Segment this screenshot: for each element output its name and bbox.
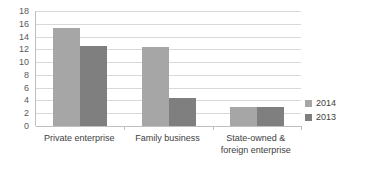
bar-group: [142, 11, 196, 126]
x-axis-category-label: Private enterprise: [35, 132, 123, 144]
y-axis-tick-label: 10: [19, 58, 29, 67]
bar-group: [230, 11, 284, 126]
axis-baseline: [36, 126, 301, 127]
legend-item-2014[interactable]: 2014: [305, 96, 336, 110]
bar-2013-2[interactable]: [169, 98, 196, 126]
bar-2014-2[interactable]: [142, 47, 169, 126]
plot-area: [35, 11, 301, 126]
bars-layer: [36, 11, 301, 126]
bar-chart: 181614121086420 Private enterpriseFamily…: [0, 0, 365, 174]
x-axis-category-label-line: State-owned &: [212, 132, 300, 144]
y-axis-tick-label: 14: [19, 32, 29, 41]
x-axis-labels: Private enterpriseFamily businessState-o…: [35, 132, 300, 172]
y-axis-tick-label: 2: [24, 109, 29, 118]
legend-item-2013[interactable]: 2013: [305, 110, 336, 124]
y-axis-tick-label: 18: [19, 7, 29, 16]
bar-2014-1[interactable]: [53, 28, 80, 126]
x-axis-tick: [301, 126, 302, 130]
y-axis-tick-label: 8: [24, 70, 29, 79]
y-axis: 181614121086420: [0, 5, 32, 128]
bar-group: [53, 11, 107, 126]
bar-2014-3[interactable]: [230, 107, 257, 126]
y-axis-tick-label: 0: [24, 122, 29, 131]
chart-legend: 20142013: [305, 96, 336, 124]
y-axis-tick-label: 12: [19, 45, 29, 54]
legend-item-label: 2013: [316, 113, 336, 122]
bar-2013-1[interactable]: [80, 46, 107, 126]
y-axis-tick-label: 16: [19, 19, 29, 28]
x-axis-category-label: State-owned &foreign enterprise: [212, 132, 300, 156]
legend-swatch-icon: [305, 114, 312, 121]
x-axis-category-label-line: Private enterprise: [35, 132, 123, 144]
x-axis-category-label-line: foreign enterprise: [212, 144, 300, 156]
x-axis-category-label-line: Family business: [123, 132, 211, 144]
legend-item-label: 2014: [316, 99, 336, 108]
x-axis-tick: [213, 126, 214, 130]
y-axis-tick-label: 6: [24, 83, 29, 92]
bar-2013-3[interactable]: [257, 107, 284, 126]
legend-swatch-icon: [305, 100, 312, 107]
y-axis-tick-label: 4: [24, 96, 29, 105]
x-axis-category-label: Family business: [123, 132, 211, 144]
x-axis-tick: [124, 126, 125, 130]
